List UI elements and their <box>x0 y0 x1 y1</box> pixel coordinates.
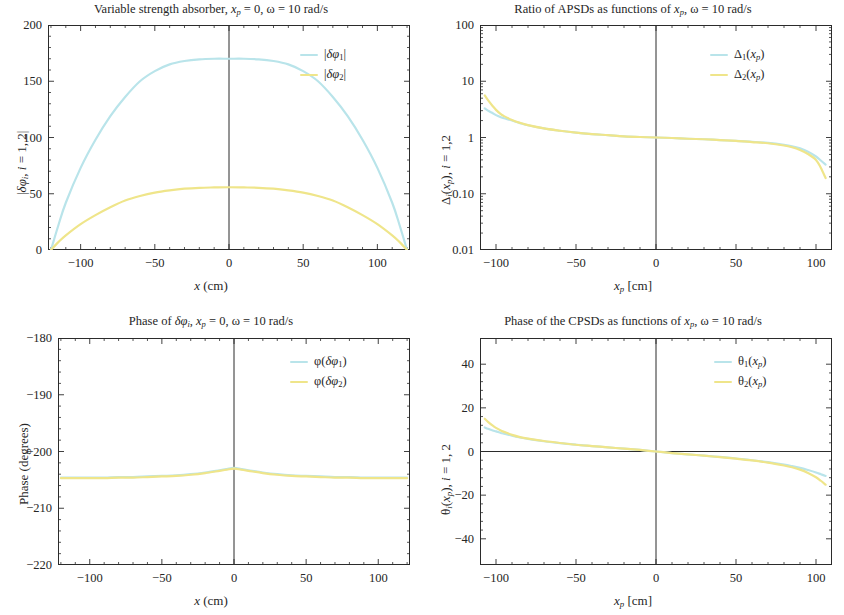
x-tick-label: −100 <box>483 571 509 586</box>
legend-swatch-series1 <box>290 361 308 363</box>
x-tick-label: −50 <box>152 571 172 586</box>
y-tick-label: 150 <box>23 74 42 89</box>
y-tick-label: −40 <box>454 531 474 546</box>
legend-item: Δ2(xp) <box>710 65 764 85</box>
legend-item: θ2(xp) <box>714 372 766 392</box>
legend-item: Δ1(xp) <box>710 45 764 65</box>
x-tick-label: −50 <box>566 256 586 271</box>
y-tick-label: 40 <box>462 357 475 372</box>
y-tick-label: 0 <box>468 444 474 459</box>
legend-swatch-series1 <box>714 361 732 363</box>
y-axis-label-bottom-left: Phase (degrees) <box>16 423 32 505</box>
y-tick-label: −190 <box>26 387 52 402</box>
x-axis-label-bottom-right: xp [cm] <box>422 593 844 609</box>
y-tick-label: 50 <box>30 186 43 201</box>
y-tick-label: 200 <box>23 18 42 33</box>
legend-label-series1: Δ1(xp) <box>734 47 764 62</box>
panel-title-top-right: Ratio of APSDs as functions of xp, ω = 1… <box>422 2 844 17</box>
legend-bottom-left: φ(δφ1) φ(δφ2) <box>290 352 347 392</box>
x-tick-label: 50 <box>730 571 743 586</box>
x-tick-label: 100 <box>369 571 388 586</box>
title-text-eq10: = 10 rad/s <box>275 2 328 16</box>
legend-item: |δφ2| <box>300 65 346 85</box>
title-symbol-delta-phi: δφ <box>175 314 188 328</box>
x-tick-label: 0 <box>653 571 659 586</box>
legend-label-series2: |δφ2| <box>324 67 346 82</box>
legend-item: φ(δφ2) <box>290 372 347 392</box>
panel-title-bottom-left: Phase of δφi, xp = 0, ω = 10 rad/s <box>0 314 422 329</box>
legend-item: |δφ1| <box>300 45 346 65</box>
x-tick-label: −100 <box>483 256 509 271</box>
title-symbol-omega: ω <box>232 314 240 328</box>
plot-curves-top-right <box>480 25 832 250</box>
plot-curves-bottom-left <box>58 338 410 565</box>
x-axis-label-top-right: xp [cm] <box>422 278 844 294</box>
y-tick-label: 0.01 <box>452 243 474 258</box>
legend-swatch-series2 <box>710 74 728 76</box>
legend-bottom-right: θ1(xp) θ2(xp) <box>714 352 766 392</box>
title-text-eq10: = 10 rad/s <box>709 314 762 328</box>
x-tick-label: −100 <box>77 571 103 586</box>
legend-label-series2: φ(δφ2) <box>314 374 347 389</box>
x-tick-label: 100 <box>807 571 826 586</box>
legend-label-series1: |δφ1| <box>324 47 346 62</box>
x-axis-label-bottom-left: x (cm) <box>0 593 422 609</box>
legend-swatch-series2 <box>714 381 732 383</box>
x-tick-label: −100 <box>68 256 94 271</box>
y-tick-label: 1 <box>468 130 474 145</box>
legend-top-right: Δ1(xp) Δ2(xp) <box>710 45 764 85</box>
y-tick-label: −220 <box>26 558 52 573</box>
legend-top-left: |δφ1| |δφ2| <box>300 45 346 85</box>
title-text-prefix: Ratio of APSDs as functions of <box>514 2 674 16</box>
legend-swatch-series1 <box>300 54 318 56</box>
panel-bottom-right: Phase of the CPSDs as functions of xp, ω… <box>422 310 844 615</box>
legend-label-series1: θ1(xp) <box>738 354 766 369</box>
plot-curves-top-left <box>48 25 410 250</box>
x-tick-label: 100 <box>807 256 826 271</box>
x-tick-label: −50 <box>145 256 165 271</box>
title-text-prefix: Phase of <box>129 314 175 328</box>
legend-label-series2: Δ2(xp) <box>734 67 764 82</box>
y-tick-label: 20 <box>462 400 475 415</box>
title-text-eq0: = 0, <box>241 2 267 16</box>
y-tick-label: −200 <box>26 444 52 459</box>
x-axis-label-top-left: x (cm) <box>0 278 422 294</box>
y-tick-label: 0.10 <box>452 186 474 201</box>
x-tick-label: −50 <box>566 571 586 586</box>
plot-area-top-right <box>480 25 832 250</box>
figure-canvas: Variable strength absorber, xp = 0, ω = … <box>0 0 844 615</box>
title-text-eq10: = 10 rad/s <box>698 2 751 16</box>
plot-area-bottom-right <box>480 338 832 565</box>
title-text-prefix: Variable strength absorber, <box>94 2 231 16</box>
plot-curves-bottom-right <box>480 338 832 565</box>
y-axis-label-bottom-right: θi(xp), i = 1, 2 <box>438 444 454 515</box>
title-text-eq10: = 10 rad/s <box>240 314 293 328</box>
legend-item: φ(δφ1) <box>290 352 347 372</box>
x-tick-label: 50 <box>297 256 310 271</box>
y-tick-label: 0 <box>36 243 42 258</box>
panel-top-right: Ratio of APSDs as functions of xp, ω = 1… <box>422 0 844 305</box>
x-tick-label: 0 <box>231 571 237 586</box>
panel-title-bottom-right: Phase of the CPSDs as functions of xp, ω… <box>422 314 844 329</box>
y-tick-label: −20 <box>454 488 474 503</box>
title-text-prefix: Phase of the CPSDs as functions of <box>504 314 684 328</box>
x-tick-label: 0 <box>653 256 659 271</box>
panel-bottom-left: Phase of δφi, xp = 0, ω = 10 rad/s x (cm… <box>0 310 422 615</box>
legend-swatch-series1 <box>710 54 728 56</box>
x-tick-label: 50 <box>300 571 313 586</box>
x-tick-label: 50 <box>730 256 743 271</box>
y-tick-label: −210 <box>26 501 52 516</box>
title-symbol-omega: ω <box>267 2 275 16</box>
title-symbol-omega: ω <box>700 314 708 328</box>
title-text-eq0: = 0, <box>206 314 232 328</box>
y-tick-label: 100 <box>455 18 474 33</box>
legend-swatch-series2 <box>300 74 318 76</box>
legend-label-series2: θ2(xp) <box>738 374 766 389</box>
x-tick-label: 100 <box>368 256 387 271</box>
plot-area-bottom-left <box>58 338 410 565</box>
panel-top-left: Variable strength absorber, xp = 0, ω = … <box>0 0 422 305</box>
legend-item: θ1(xp) <box>714 352 766 372</box>
plot-area-top-left <box>48 25 410 250</box>
legend-label-series1: φ(δφ1) <box>314 354 347 369</box>
y-tick-label: 100 <box>23 130 42 145</box>
